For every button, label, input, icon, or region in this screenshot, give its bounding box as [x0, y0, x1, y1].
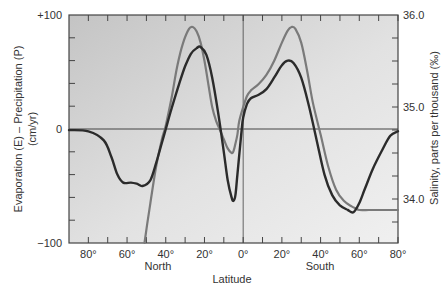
y-left-tick-label: +100: [37, 9, 62, 21]
x-tick-label: 60°: [119, 248, 136, 260]
y-left-tick-label: −100: [37, 237, 62, 249]
x-tick-label: 20°: [274, 248, 291, 260]
x-tick-label: 40°: [312, 248, 329, 260]
y-axis-left-units: (cm/yr): [26, 112, 38, 146]
x-axis-north-label: North: [145, 260, 172, 272]
x-tick-label: 60°: [351, 248, 368, 260]
x-tick-label: 80°: [390, 248, 407, 260]
y-right-tick-label: 35.0: [403, 101, 424, 113]
y-right-tick-label: 36.0: [403, 9, 424, 21]
y-right-tick-label: 34.0: [403, 193, 424, 205]
y-left-tick-label: 0: [56, 123, 62, 135]
y-axis-left-title: Evaporation (E) – Precipitation (P): [12, 46, 24, 213]
x-tick-label: 0°: [238, 248, 249, 260]
x-axis-south-label: South: [306, 260, 335, 272]
x-tick-label: 80°: [80, 248, 97, 260]
x-axis-title: Latitude: [212, 273, 251, 285]
chart: 80°60°40°20°0°20°40°60°80°+1000−10036.03…: [0, 0, 448, 293]
x-tick-label: 20°: [196, 248, 213, 260]
x-tick-label: 40°: [157, 248, 174, 260]
y-axis-right-title: Salinity, parts per thousand (‰): [428, 51, 440, 205]
